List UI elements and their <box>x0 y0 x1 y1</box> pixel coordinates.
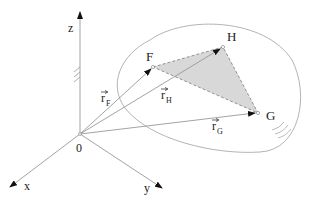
origin-marker <box>79 133 82 136</box>
point-g-marker <box>256 111 259 114</box>
svg-text:r: r <box>161 88 165 102</box>
z-axis-hatch <box>74 67 80 82</box>
point-h-label: H <box>227 29 236 44</box>
svg-text:H: H <box>166 96 172 105</box>
surface-hatch <box>272 122 291 138</box>
vector-rF <box>80 69 151 134</box>
y-axis <box>80 134 162 188</box>
x-axis <box>10 134 80 187</box>
point-g-label: G <box>266 108 275 123</box>
vector-rF-label: r F <box>101 91 111 109</box>
vector-rH-label: r H <box>161 88 172 106</box>
point-f-label: F <box>146 49 153 64</box>
svg-text:r: r <box>212 119 216 133</box>
origin-label: 0 <box>76 141 82 155</box>
svg-text:r: r <box>101 91 105 105</box>
x-axis-label: x <box>24 179 30 193</box>
svg-text:F: F <box>106 99 111 108</box>
position-vector-diagram: z x y 0 F H G r F r H r G <box>0 0 311 202</box>
svg-text:G: G <box>217 127 223 136</box>
vector-rG <box>80 113 255 134</box>
point-h-marker <box>221 45 224 48</box>
vector-rG-label: r G <box>212 119 223 137</box>
y-axis-label: y <box>144 181 150 195</box>
point-f-marker <box>151 65 154 68</box>
z-axis-label: z <box>68 21 73 35</box>
